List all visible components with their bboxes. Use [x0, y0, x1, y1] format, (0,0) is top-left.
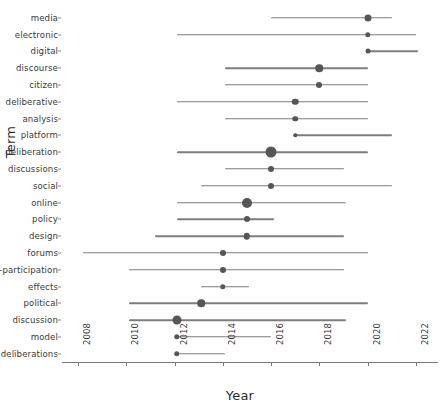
data-point-online[interactable]: [242, 198, 252, 208]
range-line: [129, 303, 368, 305]
x-tick-label: 2014: [227, 323, 237, 369]
y-tick-mark: [58, 202, 61, 203]
y-tick-label-digital: digital: [0, 46, 58, 56]
x-tick-label: 2018: [323, 323, 333, 369]
range-line: [177, 219, 274, 221]
x-tick-mark: [271, 362, 272, 366]
y-tick-mark: [58, 320, 61, 321]
data-point-social[interactable]: [268, 183, 274, 189]
y-tick-mark: [58, 236, 61, 237]
x-tick-label: 2010: [130, 323, 140, 369]
y-tick-mark: [58, 219, 61, 220]
x-tick-label: 2012: [179, 323, 189, 369]
x-tick-label: 2020: [372, 323, 382, 369]
data-point-citizen[interactable]: [316, 82, 322, 88]
y-tick-label-analysis: analysis: [0, 114, 58, 124]
y-tick-mark: [58, 152, 61, 153]
data-point-discourse[interactable]: [316, 64, 324, 72]
range-line: [201, 185, 392, 187]
y-tick-label-discourse: discourse: [0, 63, 58, 73]
data-point-e-participation[interactable]: [220, 267, 226, 273]
chart-root: Term 20082010201220142016201820202022 me…: [0, 0, 440, 411]
x-tick-mark: [223, 362, 224, 366]
range-line: [225, 67, 367, 69]
range-line: [177, 34, 416, 36]
y-tick-mark: [58, 135, 61, 136]
y-tick-mark: [58, 51, 61, 52]
y-tick-label-deliberation: deliberation: [0, 147, 58, 157]
y-tick-mark: [58, 353, 61, 354]
x-tick-mark: [126, 362, 127, 366]
x-tick-label: 2016: [275, 323, 285, 369]
y-tick-label-platform: platform: [0, 130, 58, 140]
y-tick-mark: [58, 336, 61, 337]
y-tick-mark: [58, 34, 61, 35]
data-point-media[interactable]: [364, 14, 371, 21]
y-tick-label-political: political: [0, 298, 58, 308]
y-tick-label-social: social: [0, 181, 58, 191]
data-point-policy[interactable]: [244, 216, 250, 222]
x-axis-title: Year: [150, 388, 330, 403]
y-tick-mark: [58, 84, 61, 85]
x-tick-mark: [175, 362, 176, 366]
y-tick-label-deliberations: deliberations: [0, 349, 58, 359]
y-tick-mark: [58, 269, 61, 270]
x-tick-mark: [78, 362, 79, 366]
y-tick-label-design: design: [0, 231, 58, 241]
data-point-electronic[interactable]: [365, 32, 371, 38]
y-tick-label-citizen: citizen: [0, 80, 58, 90]
range-line: [225, 168, 343, 170]
range-line: [177, 101, 368, 103]
y-tick-mark: [58, 101, 61, 102]
range-line: [368, 51, 419, 53]
y-tick-label-deliberative: deliberative: [0, 97, 58, 107]
y-tick-label-effects: effects: [0, 282, 58, 292]
x-tick-mark: [416, 362, 417, 366]
y-tick-label-forums: forums: [0, 248, 58, 258]
range-line: [225, 84, 367, 86]
x-tick-label: 2022: [420, 323, 430, 369]
data-point-forums[interactable]: [220, 250, 226, 256]
data-point-deliberative[interactable]: [292, 98, 299, 105]
range-line: [129, 269, 344, 271]
data-point-digital[interactable]: [365, 49, 370, 54]
x-tick-label: 2008: [82, 323, 92, 369]
data-point-platform[interactable]: [294, 134, 298, 138]
y-tick-label-model: model: [0, 332, 58, 342]
x-tick-mark: [368, 362, 369, 366]
y-tick-mark: [58, 68, 61, 69]
data-point-deliberation[interactable]: [266, 147, 277, 158]
range-line: [177, 336, 271, 338]
range-line: [129, 319, 346, 321]
data-point-design[interactable]: [244, 233, 251, 240]
y-tick-label-discussion: discussion: [0, 315, 58, 325]
y-tick-label-policy: policy: [0, 214, 58, 224]
y-tick-label-electronic: electronic: [0, 30, 58, 40]
data-point-effects[interactable]: [220, 284, 226, 290]
range-line: [271, 17, 392, 19]
plot-panel: [62, 6, 438, 362]
x-tick-mark: [319, 362, 320, 366]
y-tick-mark: [58, 168, 61, 169]
y-tick-label-discussions: discussions: [0, 164, 58, 174]
y-tick-label-e-participation: e-participation: [0, 265, 58, 275]
y-tick-label-media: media: [0, 13, 58, 23]
y-tick-label-online: online: [0, 198, 58, 208]
y-tick-mark: [58, 252, 61, 253]
y-tick-mark: [58, 118, 61, 119]
y-tick-mark: [58, 185, 61, 186]
data-point-political[interactable]: [197, 300, 205, 308]
y-tick-mark: [58, 303, 61, 304]
y-tick-mark: [58, 286, 61, 287]
data-point-discussions[interactable]: [268, 166, 274, 172]
range-line: [295, 135, 392, 137]
y-tick-mark: [58, 17, 61, 18]
range-line: [177, 202, 346, 204]
data-point-analysis[interactable]: [293, 116, 299, 122]
